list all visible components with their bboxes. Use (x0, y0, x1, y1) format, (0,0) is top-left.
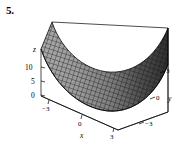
x-tick-neg3 (48, 100, 49, 104)
y-tick-label-neg3: −3 (145, 120, 153, 128)
y-tick-0 (150, 97, 155, 99)
figure-container: 5. (0, 0, 190, 143)
paraboloid-surface (30, 14, 180, 124)
x-tick-label-neg3: −3 (42, 105, 50, 113)
z-axis-label: z (32, 45, 36, 54)
z-tick-label-5: 5 (31, 77, 35, 86)
x-tick-label-3: 3 (110, 133, 114, 141)
y-tick-label-0: 0 (156, 94, 160, 102)
x-axis-label: x (79, 131, 84, 140)
x-tick-3 (113, 128, 114, 132)
x-tick-0 (81, 115, 82, 119)
y-axis-label: y (167, 94, 172, 103)
surface-plot-3d: 10 5 0 z −3 0 3 x 3 0 −3 y (0, 0, 190, 143)
z-tick-label-10: 10 (25, 63, 33, 72)
y-axis-line-front (118, 112, 168, 130)
z-tick-label-0: 0 (31, 91, 35, 100)
x-tick-label-0: 0 (78, 120, 82, 128)
z-tick-0 (41, 95, 45, 96)
z-tick-5 (41, 81, 45, 82)
z-axis (41, 67, 45, 96)
z-tick-10 (41, 67, 45, 68)
y-tick-label-3: 3 (166, 67, 170, 75)
